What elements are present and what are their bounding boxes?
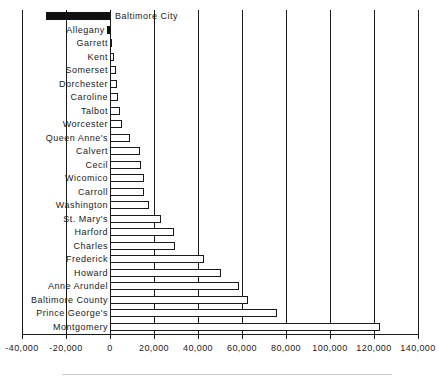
bar-row: Baltimore City [0,10,440,23]
bar [46,12,110,20]
x-tick-label: 120,000 [356,343,391,353]
bar-row: Calvert [0,145,440,158]
bar-row: Somerset [0,64,440,77]
x-tick-label: -20,000 [49,343,82,353]
category-label: Calvert [76,145,108,158]
bar-row: Harford [0,226,440,239]
bar [110,161,141,169]
category-label: Washington [56,199,108,212]
bar [110,107,120,115]
category-label: Allegany [66,24,105,37]
bar-row: Carroll [0,186,440,199]
x-tick-label: 40,000 [183,343,213,353]
bar [107,26,110,34]
category-label: Frederick [66,253,108,266]
bar-row: Kent [0,51,440,64]
category-label: Baltimore City [115,10,178,23]
bar [110,215,161,223]
category-label: Anne Arundel [48,280,108,293]
footer-divider [62,374,392,375]
x-tick-label: 20,000 [139,343,169,353]
x-tick-mark [418,334,419,339]
bar [110,201,149,209]
bar [110,174,144,182]
category-label: Howard [74,267,108,280]
bar [110,242,175,250]
bar [110,323,380,331]
bar-row: Talbot [0,105,440,118]
category-label: Harford [74,226,108,239]
bar-row: Dorchester [0,78,440,91]
bar-row: Howard [0,267,440,280]
category-label: Kent [87,51,108,64]
bar [110,80,117,88]
bar-row: Wicomico [0,172,440,185]
bar [110,93,118,101]
category-label: Worcester [63,118,108,131]
bar-row: Frederick [0,253,440,266]
bar [110,66,116,74]
category-label: Garrett [76,37,108,50]
x-tick-label: 60,000 [227,343,257,353]
category-label: Montgomery [53,321,108,334]
bar-row: Allegany [0,24,440,37]
bar [110,296,248,304]
bar-row: Anne Arundel [0,280,440,293]
bar-row: St. Mary's [0,213,440,226]
category-label: Somerset [65,64,108,77]
bar-row: Montgomery [0,321,440,334]
bar [110,120,122,128]
category-label: Queen Anne's [46,132,108,145]
x-tick-label: 80,000 [271,343,301,353]
bar-row: Caroline [0,91,440,104]
x-tick-label: 100,000 [312,343,347,353]
bar-row: Washington [0,199,440,212]
category-label: Dorchester [59,78,108,91]
bar-row: Garrett [0,37,440,50]
bar [110,282,239,290]
bar [110,53,114,61]
category-label: Talbot [81,105,108,118]
bar-chart: -40,000-20,000020,00040,00060,00080,0001… [0,0,440,386]
x-tick-label: 0 [107,343,112,353]
bar-row: Prince George's [0,307,440,320]
category-label: Charles [73,240,108,253]
x-axis-line [22,334,418,335]
category-label: Wicomico [65,172,108,185]
bar-row: Charles [0,240,440,253]
bar [110,228,174,236]
bar-row: Worcester [0,118,440,131]
x-tick-label: -40,000 [5,343,38,353]
bar [110,188,144,196]
bar [110,134,130,142]
bar [110,147,140,155]
bar [110,269,221,277]
bar-row: Baltimore County [0,294,440,307]
bar [110,255,204,263]
category-label: Caroline [70,91,108,104]
bar [110,309,277,317]
bar-row: Cecil [0,159,440,172]
category-label: Baltimore County [31,294,108,307]
bar [110,39,112,47]
category-label: Cecil [85,159,108,172]
bar-row: Queen Anne's [0,132,440,145]
category-label: Prince George's [36,307,108,320]
plot-area: -40,000-20,000020,00040,00060,00080,0001… [0,0,440,386]
category-label: St. Mary's [63,213,108,226]
category-label: Carroll [78,186,108,199]
x-tick-label: 140,000 [400,343,435,353]
